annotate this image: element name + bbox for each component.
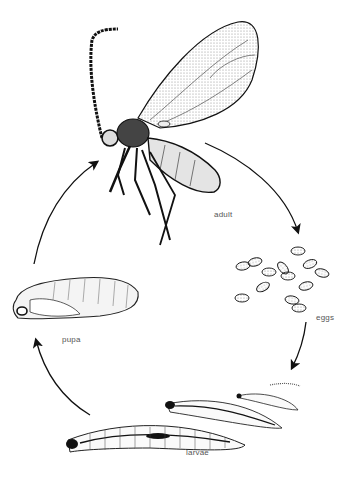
- arrow-eggs-to-larvae: [292, 322, 306, 368]
- stage-label-pupa: pupa: [62, 335, 81, 344]
- arrow-pupa-to-adult: [34, 162, 97, 264]
- stage-label-eggs: eggs: [316, 313, 334, 322]
- stage-label-larvae: larvae: [186, 448, 209, 457]
- eggs-illustration: [235, 247, 330, 312]
- pupa-illustration: [13, 278, 138, 319]
- stage-label-adult: adult: [214, 210, 232, 219]
- arrow-larvae-to-pupa: [36, 340, 90, 415]
- larvae-illustration: [66, 383, 300, 452]
- adult-gnat-illustration: [91, 22, 258, 245]
- diagram-canvas: [0, 0, 349, 478]
- life-cycle-diagram: adult eggs larvae pupa: [0, 0, 349, 478]
